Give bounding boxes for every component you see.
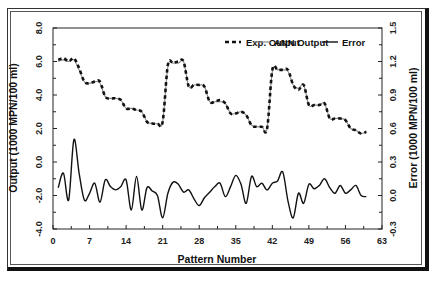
series-error: [58, 139, 366, 218]
x-tick-label: 28: [194, 236, 204, 246]
x-axis-ticks: 071421283542495663: [50, 225, 387, 246]
plot-area: [53, 28, 382, 229]
y-tick-label: 2.0: [34, 122, 44, 135]
left-axis-ticks: -4.0-2.00.02.04.06.08.0: [34, 22, 57, 237]
y2-tick-label: 0.3: [388, 156, 398, 169]
y2-tick-label: 1.5: [388, 22, 398, 35]
x-tick-label: 14: [121, 236, 131, 246]
legend-label: ANN Output: [274, 37, 329, 48]
legend: Exp. Output ANN Output Error: [225, 37, 366, 48]
y-axis-label: Output (1000 MPN/100 ml): [7, 63, 19, 193]
x-tick-label: 7: [87, 236, 92, 246]
y-tick-label: 8.0: [34, 22, 44, 35]
y-tick-label: 6.0: [34, 55, 44, 68]
x-tick-label: 0: [50, 236, 55, 246]
right-axis-ticks: -0.30.00.30.60.91.21.5: [378, 22, 398, 237]
line-chart: -4.0-2.00.02.04.06.08.0 -0.30.00.30.60.9…: [0, 0, 432, 281]
y2-tick-label: -0.3: [388, 221, 398, 237]
series-layer: [58, 58, 366, 218]
x-tick-label: 42: [267, 236, 277, 246]
x-axis-label: Pattern Number: [178, 253, 257, 265]
y-tick-label: 0.0: [34, 156, 44, 169]
series-ann-output: [58, 59, 366, 133]
y2-tick-label: 0.9: [388, 89, 398, 102]
x-tick-label: 49: [304, 236, 314, 246]
x-tick-label: 63: [377, 236, 387, 246]
y-tick-label: -2.0: [34, 188, 44, 204]
y-tick-label: -4.0: [34, 221, 44, 237]
x-tick-label: 21: [158, 236, 168, 246]
y2-axis-label: Error (1000 MPN/100 ml): [407, 68, 419, 189]
y2-tick-label: 0.0: [388, 189, 398, 202]
y2-tick-label: 1.2: [388, 55, 398, 68]
x-tick-label: 56: [340, 236, 350, 246]
legend-label: Error: [342, 37, 366, 48]
y2-tick-label: 0.6: [388, 122, 398, 135]
x-tick-label: 35: [231, 236, 241, 246]
y-tick-label: 4.0: [34, 89, 44, 102]
legend-item-error: Error: [322, 37, 366, 48]
